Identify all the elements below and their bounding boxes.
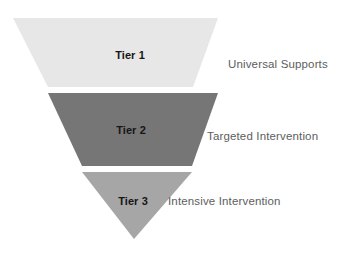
tier-2-label: Tier 2 <box>116 124 146 136</box>
tier-2-side-label: Targeted Intervention <box>207 130 318 142</box>
tier-1-label: Tier 1 <box>115 49 145 61</box>
tier-3-side-label: Intensive Intervention <box>168 195 281 207</box>
tier-1-side-label: Universal Supports <box>228 58 328 70</box>
tier-3-label: Tier 3 <box>118 195 148 207</box>
tiered-support-funnel-diagram: Tier 1 Tier 2 Tier 3 Universal Supports … <box>0 0 363 265</box>
